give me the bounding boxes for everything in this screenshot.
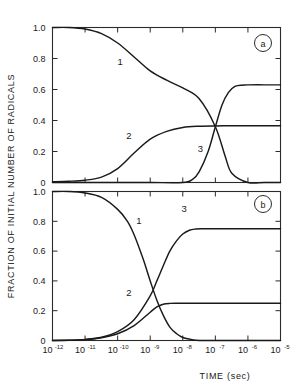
x-ticklabel-base: 10 bbox=[238, 345, 248, 355]
x-axis-title: TIME (sec) bbox=[200, 371, 251, 381]
curve-label-1: 1 bbox=[118, 56, 123, 67]
curve-3 bbox=[53, 229, 281, 341]
curve-1 bbox=[53, 191, 281, 340]
y-ticklabel: 0.6 bbox=[33, 85, 46, 95]
panel-b-x-ticks bbox=[53, 192, 281, 341]
panel-b-y-ticklabels: 00.20.40.60.81.0 bbox=[33, 187, 46, 346]
panel-b-frame bbox=[53, 192, 281, 341]
x-ticklabel: 10-8 bbox=[173, 344, 193, 356]
x-ticklabel: 10-5 bbox=[270, 344, 290, 356]
x-ticklabel-exponent: -5 bbox=[284, 344, 290, 350]
panel-b: 00.20.40.60.81.0 123 b bbox=[33, 187, 281, 346]
x-ticklabel-exponent: -6 bbox=[252, 344, 258, 350]
panel-a-y-ticklabels: 00.20.40.60.81.0 bbox=[33, 23, 46, 188]
figure-container: FRACTION OF INITIAL NUMBER OF RADICALS T… bbox=[0, 0, 298, 392]
panel-a-x-ticks bbox=[53, 28, 281, 183]
y-ticklabel: 0.4 bbox=[33, 116, 46, 126]
panel-b-label: b bbox=[260, 200, 265, 210]
y-ticklabel: 1.0 bbox=[33, 187, 46, 197]
y-axis-title-text: FRACTION OF INITIAL NUMBER OF RADICALS bbox=[6, 74, 16, 298]
y-ticklabel: 0.2 bbox=[33, 306, 46, 316]
x-ticklabel: 10-12 bbox=[42, 344, 64, 356]
x-ticklabel-exponent: -10 bbox=[120, 344, 129, 350]
panel-a-label: a bbox=[260, 39, 265, 49]
panel-a-frame bbox=[53, 28, 281, 183]
curve-label-3: 3 bbox=[181, 203, 186, 214]
x-ticklabel-exponent: -9 bbox=[154, 344, 160, 350]
curve-label-1: 1 bbox=[136, 215, 141, 226]
curve-3 bbox=[53, 85, 281, 183]
x-ticklabel-exponent: -8 bbox=[187, 344, 193, 350]
y-ticklabel: 0.4 bbox=[33, 276, 46, 286]
x-axis-ticklabels: 10-1210-1110-1010-910-810-710-610-5 bbox=[42, 344, 290, 356]
panel-a-curve-labels: 123 bbox=[118, 56, 204, 154]
panel-b-curves bbox=[53, 191, 281, 340]
x-ticklabel: 10-6 bbox=[238, 344, 258, 356]
y-ticklabel: 0.8 bbox=[33, 217, 46, 227]
y-axis-title: FRACTION OF INITIAL NUMBER OF RADICALS bbox=[6, 74, 16, 298]
y-ticklabel: 1.0 bbox=[33, 23, 46, 33]
curve-label-2: 2 bbox=[126, 130, 131, 141]
curve-label-3: 3 bbox=[198, 143, 203, 154]
x-ticklabel-base: 10 bbox=[140, 345, 150, 355]
curve-label-2: 2 bbox=[126, 287, 131, 298]
x-ticklabel: 10-11 bbox=[75, 344, 96, 356]
x-ticklabel-exponent: -12 bbox=[55, 344, 64, 350]
x-ticklabel-base: 10 bbox=[42, 345, 52, 355]
x-ticklabel-exponent: -11 bbox=[87, 344, 96, 350]
x-ticklabel-base: 10 bbox=[108, 345, 118, 355]
curve-2 bbox=[53, 126, 281, 182]
curve-1 bbox=[53, 27, 281, 183]
y-ticklabel: 0.6 bbox=[33, 246, 46, 256]
x-ticklabel: 10-10 bbox=[108, 344, 130, 356]
panel-a-curves bbox=[53, 27, 281, 183]
x-ticklabel-base: 10 bbox=[205, 345, 215, 355]
x-ticklabel-base: 10 bbox=[173, 345, 183, 355]
panel-a: 00.20.40.60.81.0 123 a bbox=[33, 23, 281, 188]
x-ticklabel-exponent: -7 bbox=[219, 344, 225, 350]
panel-b-y-ticks bbox=[53, 192, 281, 341]
x-ticklabel: 10-7 bbox=[205, 344, 225, 356]
y-ticklabel: 0.2 bbox=[33, 147, 46, 157]
radical-fraction-chart: FRACTION OF INITIAL NUMBER OF RADICALS T… bbox=[0, 0, 298, 392]
x-axis-title-text: TIME (sec) bbox=[200, 371, 251, 381]
x-ticklabel: 10-9 bbox=[140, 344, 160, 356]
panel-a-y-ticks bbox=[53, 28, 281, 183]
x-ticklabel-base: 10 bbox=[75, 345, 85, 355]
y-ticklabel: 0.8 bbox=[33, 54, 46, 64]
x-ticklabel-base: 10 bbox=[270, 345, 280, 355]
